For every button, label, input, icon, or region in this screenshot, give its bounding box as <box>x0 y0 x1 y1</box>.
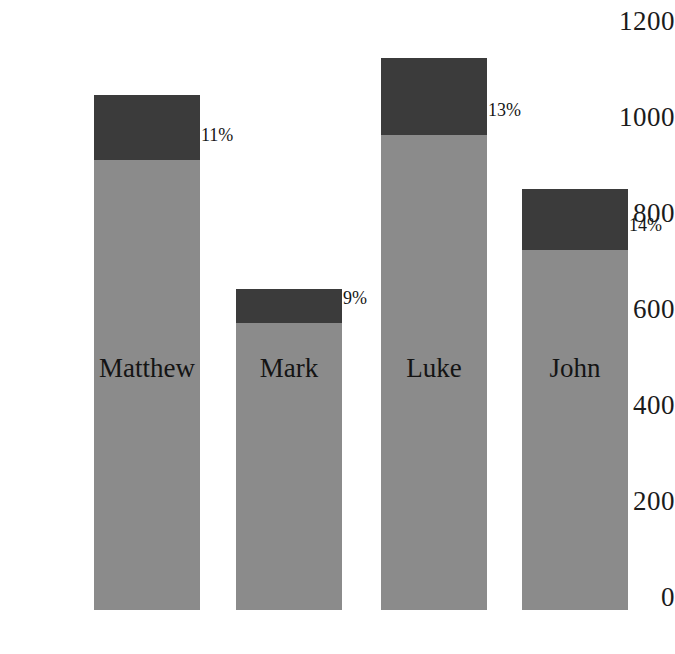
bar-segment-lower-mark[interactable] <box>236 323 342 610</box>
bar-john[interactable]: John <box>522 189 628 610</box>
bar-segment-lower-matthew[interactable] <box>94 160 200 610</box>
stacked-bar-chart: 120010008006004002000 MatthewMarkLukeJoh… <box>0 0 675 654</box>
bar-segment-upper-john[interactable] <box>522 189 628 250</box>
bar-segment-lower-john[interactable] <box>522 250 628 610</box>
bar-segment-upper-mark[interactable] <box>236 289 342 323</box>
percent-label-luke: 13% <box>488 101 521 119</box>
bar-matthew[interactable]: Matthew <box>94 95 200 610</box>
percent-label-matthew: 11% <box>201 126 233 144</box>
y-tick-label-1200: 1200 <box>589 8 675 35</box>
bar-mark[interactable]: Mark <box>236 289 342 610</box>
bar-luke[interactable]: Luke <box>381 58 487 610</box>
percent-label-john: 14% <box>629 216 662 234</box>
bar-segment-upper-luke[interactable] <box>381 58 487 135</box>
percent-label-mark: 9% <box>343 289 367 307</box>
bar-segment-upper-matthew[interactable] <box>94 95 200 160</box>
bar-segment-lower-luke[interactable] <box>381 135 487 610</box>
y-tick-label-1000: 1000 <box>589 104 675 131</box>
